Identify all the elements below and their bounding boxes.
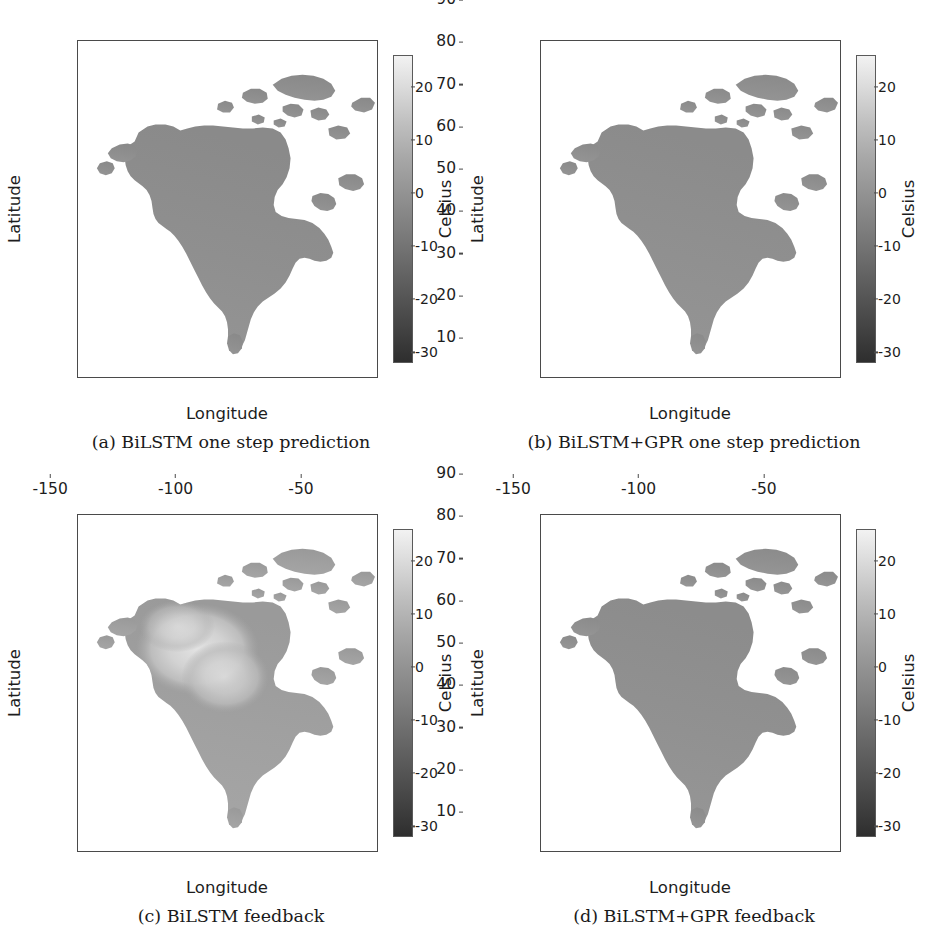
- colorbar-tick-c-2: 0: [415, 660, 424, 674]
- colorbar-gradient-a: [393, 55, 413, 363]
- ytick-d-6: 30: [436, 720, 463, 736]
- colorbar-tick-d-3: -10: [878, 713, 901, 727]
- colorbar-label-b: Celsius: [899, 180, 918, 239]
- colorbar-c: 20 10 0 -10 -20 -30: [393, 529, 413, 837]
- ytick-d-1: 80: [436, 509, 463, 525]
- map-render-a: [78, 41, 377, 377]
- ytick-d-4: 50: [436, 635, 463, 651]
- panel-b: 90 80 70 60 50 40 30 20 10 -150 -100 -50…: [463, 0, 925, 474]
- colorbar-tick-d-2: 0: [878, 660, 887, 674]
- colorbar-gradient-d: [856, 529, 876, 837]
- colorbar-gradient-c: [393, 529, 413, 837]
- colorbar-tick-a-2: 0: [415, 186, 424, 200]
- colorbar-tick-a-1: 10: [415, 133, 433, 147]
- map-render-c: [78, 515, 377, 851]
- colorbar-tick-a-5: -30: [415, 345, 438, 359]
- panel-caption-c: (c) BiLSTM feedback: [0, 906, 462, 926]
- ytick-b-8: 10: [436, 330, 463, 346]
- ytick-d-0: 90: [436, 466, 463, 482]
- map-axes-d: [540, 514, 841, 852]
- panel-d: 90 80 70 60 50 40 30 20 10 -150 -100 -50…: [463, 474, 925, 948]
- ytick-b-5: 40: [436, 204, 463, 220]
- colorbar-tick-a-4: -20: [415, 292, 438, 306]
- colorbar-tick-c-5: -30: [415, 819, 438, 833]
- y-axis-label-d: Latitude: [468, 649, 487, 717]
- ytick-b-3: 60: [436, 119, 463, 135]
- colorbar-a: 20 10 0 -10 -20 -30: [393, 55, 413, 363]
- colorbar-tick-a-0: 20: [415, 80, 433, 94]
- colorbar-d: 20 10 0 -10 -20 -30: [856, 529, 876, 837]
- map-axes-a: [77, 40, 378, 378]
- x-axis-label-d: Longitude: [649, 878, 731, 897]
- y-axis-label-c: Latitude: [5, 649, 24, 717]
- colorbar-tick-c-1: 10: [415, 607, 433, 621]
- panel-caption-a: (a) BiLSTM one step prediction: [0, 432, 462, 452]
- ytick-d-5: 40: [436, 678, 463, 694]
- colorbar-tick-c-0: 20: [415, 554, 433, 568]
- colorbar-tick-b-2: 0: [878, 186, 887, 200]
- colorbar-tick-b-3: -10: [878, 239, 901, 253]
- colorbar-tick-d-5: -30: [878, 819, 901, 833]
- x-axis-label-a: Longitude: [186, 404, 268, 423]
- map-render-b: [541, 41, 840, 377]
- map-axes-b: [540, 40, 841, 378]
- colorbar-tick-c-3: -10: [415, 713, 438, 727]
- ytick-d-3: 60: [436, 593, 463, 609]
- ytick-b-0: 90: [436, 0, 463, 8]
- ytick-b-1: 80: [436, 35, 463, 51]
- colorbar-tick-a-3: -10: [415, 239, 438, 253]
- y-axis-label-a: Latitude: [5, 175, 24, 243]
- colorbar-tick-b-1: 10: [878, 133, 896, 147]
- panel-caption-d: (d) BiLSTM+GPR feedback: [463, 906, 925, 926]
- panel-caption-b: (b) BiLSTM+GPR one step prediction: [463, 432, 925, 452]
- x-axis-label-b: Longitude: [649, 404, 731, 423]
- ytick-b-4: 50: [436, 161, 463, 177]
- ytick-b-7: 20: [436, 288, 463, 304]
- figure: 90 80 70 60 50 40 30 20 10 -150 -100 -50…: [0, 0, 925, 948]
- ytick-d-2: 70: [436, 551, 463, 567]
- colorbar-tick-b-4: -20: [878, 292, 901, 306]
- map-render-d: [541, 515, 840, 851]
- colorbar-tick-d-1: 10: [878, 607, 896, 621]
- ytick-d-7: 20: [436, 762, 463, 778]
- panel-a: 90 80 70 60 50 40 30 20 10 -150 -100 -50…: [0, 0, 462, 474]
- colorbar-gradient-b: [856, 55, 876, 363]
- x-axis-label-c: Longitude: [186, 878, 268, 897]
- ytick-b-2: 70: [436, 77, 463, 93]
- colorbar-tick-b-5: -30: [878, 345, 901, 359]
- ytick-b-6: 30: [436, 246, 463, 262]
- y-axis-label-b: Latitude: [468, 175, 487, 243]
- colorbar-tick-b-0: 20: [878, 80, 896, 94]
- colorbar-label-d: Celsius: [899, 654, 918, 713]
- colorbar-b: 20 10 0 -10 -20 -30: [856, 55, 876, 363]
- colorbar-tick-c-4: -20: [415, 766, 438, 780]
- colorbar-tick-d-0: 20: [878, 554, 896, 568]
- panel-c: 90 80 70 60 50 40 30 20 10 -150 -100 -50…: [0, 474, 462, 948]
- map-axes-c: [77, 514, 378, 852]
- colorbar-tick-d-4: -20: [878, 766, 901, 780]
- ytick-d-8: 10: [436, 804, 463, 820]
